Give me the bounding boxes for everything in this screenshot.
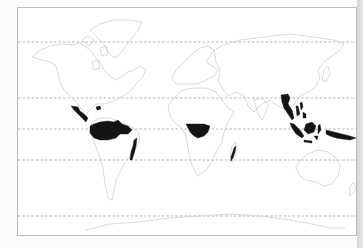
region-central-america [71,106,88,122]
region-atlantic-forest [130,138,137,160]
region-new-guinea [326,130,356,140]
rainforest-regions [71,94,356,161]
asia-outline [214,34,344,112]
antarctica-outline [86,214,345,230]
world-map [0,0,363,248]
new-zealand-outline [350,182,356,196]
region-congo [186,124,210,138]
region-borneo [304,122,316,134]
australia-outline [296,150,340,186]
north-america-outline [32,43,146,116]
europe-outline [172,46,218,84]
region-java [304,140,312,143]
region-philippines [296,102,306,118]
arctic-islands-outline [82,36,108,70]
greenland-outline [90,20,142,58]
japan-outline [322,66,330,82]
region-caribbean [96,106,101,110]
region-amazon [90,120,132,140]
india-outline [254,98,268,120]
region-sumatra [290,123,304,138]
region-indochina [281,94,294,120]
